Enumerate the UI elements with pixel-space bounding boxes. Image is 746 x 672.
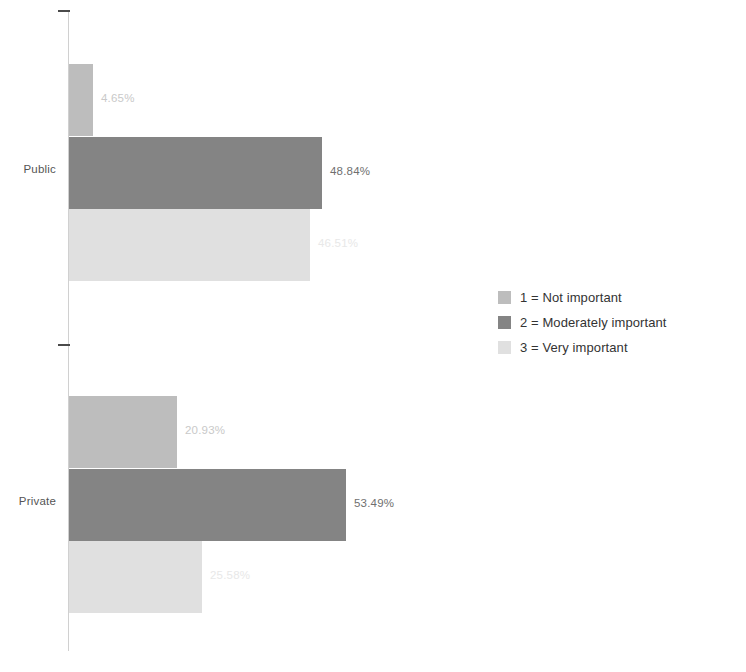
legend-swatch-icon-2 (498, 316, 511, 329)
bar-label-public-series2: 48.84% (330, 165, 370, 177)
bar-private-series3 (69, 541, 202, 613)
bar-label-private-series1: 20.93% (185, 424, 225, 436)
bar-public-series3 (69, 209, 310, 281)
bar-public-series1 (69, 64, 93, 136)
legend-swatch-icon-1 (498, 291, 511, 304)
legend-label-3: 3 = Very important (520, 340, 628, 355)
category-label-public: Public (0, 163, 56, 175)
bar-label-public-series3: 46.51% (318, 237, 358, 249)
legend-label-2: 2 = Moderately important (520, 315, 667, 330)
bar-public-series2 (69, 137, 322, 209)
legend-item-1[interactable]: 1 = Not important (498, 285, 738, 310)
bar-label-private-series2: 53.49% (354, 497, 394, 509)
legend-label-1: 1 = Not important (520, 290, 622, 305)
bar-label-public-series1: 4.65% (101, 92, 135, 104)
legend-item-3[interactable]: 3 = Very important (498, 335, 738, 360)
bar-private-series1 (69, 396, 177, 468)
axis-tick-top (58, 10, 70, 12)
bar-chart: Public Private 4.65% 48.84% 46.51% 20.93… (0, 0, 746, 672)
category-label-private: Private (0, 495, 56, 507)
bar-label-private-series3: 25.58% (210, 569, 250, 581)
legend-item-2[interactable]: 2 = Moderately important (498, 310, 738, 335)
bar-private-series2 (69, 469, 346, 541)
axis-tick-middle (58, 344, 70, 346)
legend-swatch-icon-3 (498, 341, 511, 354)
legend: 1 = Not important 2 = Moderately importa… (498, 285, 738, 360)
